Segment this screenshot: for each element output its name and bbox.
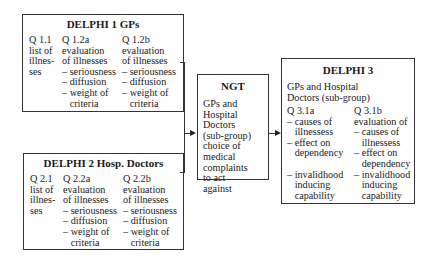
delphi1-q1-2b: Q 1.2b evaluation of illnesses – serious…	[122, 35, 182, 109]
delphi2-q2-1: Q 2.1 list of illnes- ses	[30, 174, 63, 248]
ngt-description: GPs and Hospital Doctors (sub-group) cho…	[203, 99, 251, 194]
delphi1-title: DELPHI 1 GPs	[23, 18, 183, 31]
connector-line	[180, 172, 185, 173]
ngt-title: NGT	[198, 80, 268, 93]
delphi3-q3-1b: Q 3.1b evaluation of – causes of illness…	[354, 106, 416, 201]
delphi3-q3-1a: Q 3.1a – causes of illnessess – effect o…	[287, 106, 354, 201]
delphi2-title: DELPHI 2 Hosp. Doctors	[24, 157, 183, 170]
delphi2-q2-2b: Q 2.2b evaluation of illnesses – serious…	[123, 174, 183, 248]
delphi3-title: DELPHI 3	[282, 64, 414, 77]
ngt-box: NGT GPs and Hospital Doctors (sub-group)…	[197, 74, 269, 180]
delphi3-subtitle: GPs and Hospital Doctors (sub-group)	[287, 82, 370, 103]
delphi1-q1-1: Q 1.1 list of illnes- ses	[29, 35, 62, 109]
connector-line	[180, 62, 185, 63]
delphi1-q1-2a: Q 1.2a evaluation of illnesses – serious…	[62, 35, 122, 109]
arrow-right-icon	[190, 130, 196, 136]
delphi2-q2-2a: Q 2.2a evaluation of illnesses – serious…	[63, 174, 123, 248]
delphi2-box: DELPHI 2 Hosp. Doctors Q 2.1 list of ill…	[23, 153, 184, 250]
delphi3-box: DELPHI 3 GPs and Hospital Doctors (sub-g…	[281, 58, 415, 204]
connector-line	[184, 62, 185, 173]
delphi1-box: DELPHI 1 GPs Q 1.1 list of illnes- ses Q…	[22, 14, 184, 112]
